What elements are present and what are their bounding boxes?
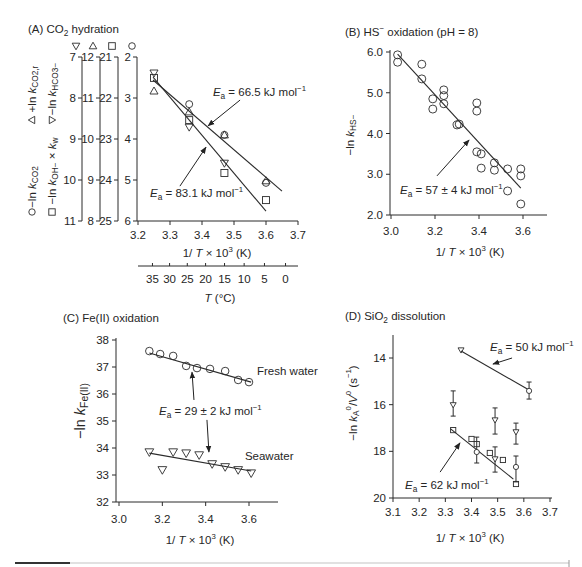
text-segment: hydration [68, 23, 119, 35]
y-tick-label: 32 [96, 496, 109, 508]
y-axis-label-text: +ln kCO2,r [26, 65, 40, 112]
y-axis-label-square: −ln kOH− × kw [46, 137, 60, 216]
annotation-text: Ea = 83.1 kJ mol−1 [150, 185, 243, 202]
text-segment: × 10 [186, 534, 212, 546]
text-segment: −ln [46, 96, 58, 115]
annotation-text: Ea = 50 kJ mol−1 [490, 339, 574, 356]
y-tick-label: 6 [125, 215, 131, 227]
x-tick-label: 3.0 [383, 225, 399, 237]
data-point-triangle-down [247, 470, 256, 478]
y-tick-label: 16 [373, 399, 386, 411]
y-tick-label: 3.0 [367, 168, 383, 180]
y-tick-label: 10 [63, 174, 76, 186]
x-tick-label: 3.1 [385, 506, 401, 518]
data-point-circle [477, 164, 485, 172]
x-tick-label: 3.2 [154, 513, 170, 525]
data-point-circle [245, 378, 253, 386]
secondary-tick-label: 15 [218, 273, 231, 285]
data-point-circle [440, 92, 448, 100]
arrow-icon [208, 100, 240, 126]
data-point-circle [418, 60, 426, 68]
y-tick-label: 11 [64, 215, 76, 227]
text-segment: = 62 kJ mol [417, 479, 479, 491]
data-point-circle [517, 200, 525, 208]
secondary-tick-label: 30 [163, 273, 176, 285]
text-segment: −ln [46, 186, 58, 205]
data-point-triangle-up [150, 87, 158, 94]
secondary-tick-label: 5 [261, 273, 267, 285]
text-segment: −ln [347, 422, 359, 441]
y-tick-label: 2.0 [367, 209, 383, 221]
y-tick-label: 20 [373, 492, 386, 504]
data-point-triangle-down [169, 449, 178, 457]
secondary-tick-label: 25 [181, 273, 194, 285]
text-segment: −1 [297, 84, 306, 93]
arrow-icon [192, 372, 194, 400]
series-circle [146, 347, 253, 386]
fit-line [398, 54, 521, 188]
y-tick-label: 4 [125, 133, 132, 145]
text-segment: dissolution [388, 310, 446, 322]
data-point-square [263, 197, 270, 204]
text-segment: −1 [494, 182, 503, 191]
y-tick-label: 21 [99, 51, 112, 63]
x-axis-label: 1/ T × 103 (K) [436, 530, 505, 544]
data-point-circle [418, 75, 426, 83]
x-axis-label: 1/ T × 103 (K) [166, 532, 235, 546]
x-tick-label: 3.7 [542, 506, 558, 518]
text-segment: 1/ [183, 247, 196, 259]
text-segment: (s [347, 378, 359, 391]
secondary-tick-label: 20 [199, 273, 212, 285]
text-segment: Fe(II) [79, 383, 90, 408]
y-axis-label-circle: −ln kCO2 [26, 166, 40, 215]
data-point-circle [474, 449, 479, 454]
text-segment: × 10 [456, 532, 482, 544]
panel-title: (A) CO2 hydration [28, 23, 119, 38]
text-segment: 1/ [436, 532, 449, 544]
x-axis-label: 1/ T × 103 (K) [436, 244, 505, 258]
y-tick-label: 25 [99, 215, 112, 227]
y-tick-label: 34 [96, 442, 109, 454]
data-point-square [487, 450, 492, 455]
fit-line [461, 351, 529, 390]
text-segment: 1/ [436, 246, 449, 258]
text-segment: × 10 [456, 246, 482, 258]
data-point-circle [526, 388, 531, 393]
y-axis-label: −ln kA0/V0 (s−1) [344, 365, 362, 440]
arrow-icon [493, 358, 512, 364]
y-axis-label-text: −ln kCO2 [26, 166, 40, 208]
x-tick-label: 3.3 [437, 506, 453, 518]
text-segment: (°C) [212, 292, 236, 304]
data-point-circle [504, 187, 512, 195]
data-point-circle [477, 150, 485, 158]
data-point-circle [473, 99, 481, 107]
arrow-icon [207, 420, 209, 452]
x-tick-label: 3.2 [411, 506, 427, 518]
text-segment: 1/ [166, 534, 179, 546]
data-point-triangle-down [492, 418, 498, 423]
text-segment: CO2,r [30, 65, 40, 87]
text-segment: w [50, 137, 60, 145]
fit-line [451, 429, 514, 479]
data-point-triangle-down [195, 452, 204, 460]
x-tick-label: 3.4 [198, 513, 215, 525]
data-point-circle [169, 352, 177, 360]
text-segment: +ln [26, 94, 38, 113]
legend-triangle-up-icon [28, 116, 34, 123]
data-point-circle [156, 350, 164, 358]
data-point-triangle-down [185, 124, 193, 131]
y-scale-triangle-up: 12111098 [81, 42, 100, 227]
panel-title: (D) SiO2 dissolution [345, 310, 446, 325]
x-tick-label: 3.4 [194, 229, 211, 241]
x-tick-label: 3.0 [111, 513, 127, 525]
data-point-circle [429, 105, 437, 113]
y-tick-label: 14 [373, 352, 386, 364]
y-tick-label: 23 [99, 133, 112, 145]
y-tick-label: 38 [96, 334, 109, 346]
y-scale-square: 2122232425 [99, 43, 118, 227]
text-segment: −1 [344, 369, 353, 378]
x-tick-label: 3.2 [427, 225, 443, 237]
text-segment: −ln [344, 137, 356, 156]
text-segment: = 83.1 kJ mol [162, 187, 234, 199]
panel-d: (D) SiO2 dissolution3.13.23.33.43.53.63.… [344, 310, 574, 544]
